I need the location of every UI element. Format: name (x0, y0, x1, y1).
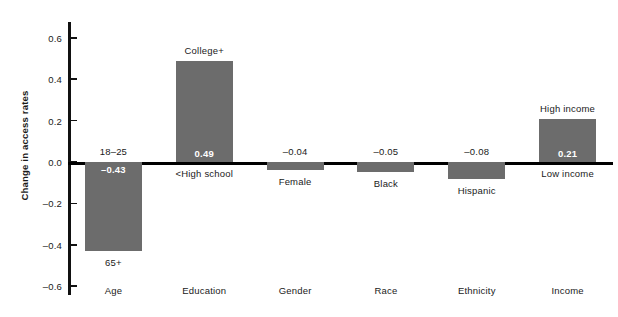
bar (85, 162, 142, 251)
y-axis-tick (68, 37, 77, 39)
y-axis-tick-label: –0.2 (22, 198, 62, 209)
y-axis-tick-label: 0.4 (22, 74, 62, 85)
y-axis-tick-label: 0.0 (22, 157, 62, 168)
bar (448, 162, 505, 179)
bar-top-label: College+ (144, 45, 264, 56)
y-axis-tick (68, 120, 77, 122)
x-axis-group-label: Income (513, 285, 618, 296)
y-axis-line (68, 22, 71, 295)
y-axis-tick-label: 0.2 (22, 115, 62, 126)
y-axis-tick-label: –0.4 (22, 239, 62, 250)
bar-top-label: High income (508, 103, 618, 114)
bar-value-label: 0.49 (159, 148, 249, 159)
bar-value-label: –0.08 (432, 146, 522, 157)
bar-top-label: 18–25 (53, 146, 173, 157)
y-axis-tick-label: –0.6 (22, 281, 62, 292)
y-axis-tick-label: 0.6 (22, 32, 62, 43)
y-axis-tick (68, 244, 77, 246)
bar (176, 61, 233, 162)
bar (267, 162, 324, 170)
y-axis-tick (68, 203, 77, 205)
y-axis-tick (68, 78, 77, 80)
bar-bottom-label: Hispanic (417, 185, 537, 196)
bar-value-label: 0.21 (523, 148, 613, 159)
bar-chart: Change in access rates 0.60.40.20.0–0.2–… (0, 0, 618, 317)
bar-value-label: –0.05 (341, 146, 431, 157)
bar-bottom-label: 65+ (53, 257, 173, 268)
bar-bottom-label: Low income (508, 168, 618, 179)
bar-value-label: –0.04 (250, 146, 340, 157)
bar (357, 162, 414, 172)
